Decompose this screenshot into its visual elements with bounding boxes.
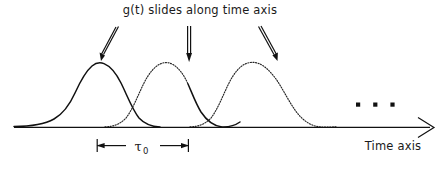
continuation-dots-icon [356,103,395,107]
pulse-train-figure: g(t) slides along time axis [0,0,448,170]
figure-title: g(t) slides along time axis [123,3,277,17]
figure-root: g(t) slides along time axis [0,0,448,170]
arrow-to-pulse-1-icon [100,27,119,62]
time-axis-label: Time axis [364,139,422,153]
arrow-to-pulse-3-icon [259,26,278,61]
pulse-curve-2 [105,63,240,127]
period-label-tau: τ [135,139,142,154]
time-axis [14,118,434,138]
pulse-curve-3 [190,62,336,127]
arrow-to-pulse-2-icon [186,26,192,62]
period-label-subscript: 0 [143,146,148,156]
annotation-arrows [100,26,278,62]
period-measure: τ 0 [97,139,189,156]
